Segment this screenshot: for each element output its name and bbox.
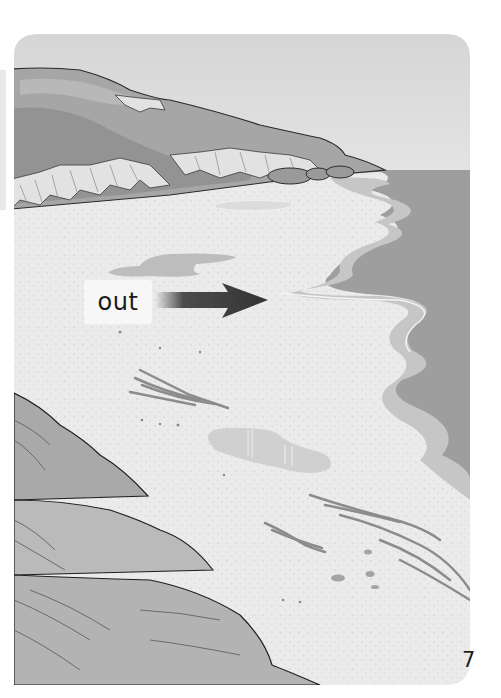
tide-pool-top bbox=[215, 200, 292, 210]
page-number: 7 bbox=[462, 648, 475, 672]
page-edge-shadow bbox=[0, 70, 6, 210]
direction-label: out bbox=[84, 280, 152, 324]
direction-label-text: out bbox=[98, 290, 139, 314]
book-page: out 7 bbox=[0, 0, 501, 698]
scene-frame bbox=[0, 0, 501, 698]
beach-illustration bbox=[0, 0, 501, 698]
